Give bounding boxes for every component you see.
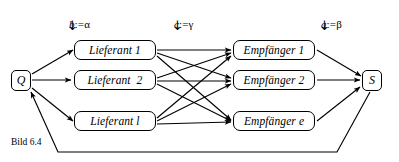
param-c-arrow-icon: ↓ — [172, 19, 183, 32]
param-b-value: α — [84, 18, 90, 30]
edge-empfaenger-e-to-s — [317, 87, 360, 121]
node-empfaenger-e[interactable]: Empfänger e — [233, 111, 315, 131]
edge-q-to-lieferant-1 — [32, 50, 73, 74]
node-source-q[interactable]: Q — [11, 70, 31, 91]
param-a-value: β — [336, 18, 342, 30]
node-lieferant-1[interactable]: Lieferant 1 — [74, 40, 156, 60]
param-b-arrow-icon: ↓ — [67, 19, 78, 32]
node-sink-s[interactable]: S — [362, 70, 382, 91]
figure-bild-6-4: b:=α ↓ c:=γ ↓ a:=β ↓ Q S Lieferant 1 Lie… — [0, 0, 399, 162]
param-c-value: γ — [189, 18, 194, 30]
param-a-arrow-icon: ↓ — [319, 19, 330, 32]
edge-lieferant-l-to-empfaenger-e — [157, 122, 231, 124]
figure-caption: Bild 6.4 — [11, 137, 42, 147]
node-empfaenger-1[interactable]: Empfänger 1 — [233, 40, 315, 60]
node-empfaenger-2[interactable]: Empfänger 2 — [233, 70, 315, 90]
edge-q-to-lieferant-l — [32, 88, 73, 121]
node-lieferant-2[interactable]: Lieferant 2 — [74, 70, 156, 90]
edge-empfaenger-1-to-s — [317, 50, 361, 76]
node-lieferant-l[interactable]: Lieferant l — [74, 111, 156, 131]
